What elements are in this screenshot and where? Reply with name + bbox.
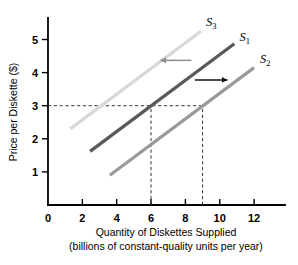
y-tick-label-5: 5: [32, 34, 38, 46]
x-tick-label-2: 2: [79, 212, 85, 224]
shift-left-arrow: [160, 58, 191, 64]
shift-right-arrow-head: [222, 77, 228, 83]
supply-curves: [70, 31, 254, 175]
x-axis-title-line1: Quantity of Diskettes Supplied: [96, 226, 237, 238]
supply-curve-s3: [70, 31, 201, 129]
y-axis-title: Price per Diskette ($): [7, 63, 19, 162]
y-tick-label-2: 2: [32, 133, 38, 145]
x-tick-label-12: 12: [248, 212, 260, 224]
curve-label-s1: S1: [239, 30, 250, 46]
shift-arrows: [160, 58, 227, 83]
chart-canvas: 12345 024681012 S1S2S3 Price per Diskett…: [0, 0, 298, 265]
reference-dashed-lines: [48, 106, 203, 205]
x-axis-tick-labels: 024681012: [45, 212, 260, 224]
y-axis-tick-labels: 12345: [32, 34, 39, 178]
x-axis-title-line2: (billions of constant-quality units per …: [69, 240, 263, 252]
x-tick-label-10: 10: [214, 212, 226, 224]
y-tick-label-4: 4: [32, 67, 39, 79]
x-tick-label-8: 8: [182, 212, 188, 224]
x-tick-label-4: 4: [114, 212, 121, 224]
x-tick-label-0: 0: [45, 212, 51, 224]
curve-label-s3: S3: [206, 15, 217, 31]
curve-label-s2: S2: [260, 52, 271, 68]
shift-right-arrow: [195, 77, 228, 83]
curve-label-subscript: 1: [246, 36, 250, 46]
supply-curve-figure: 12345 024681012 S1S2S3 Price per Diskett…: [0, 0, 298, 265]
x-tick-label-6: 6: [148, 212, 154, 224]
curve-label-subscript: 3: [212, 21, 216, 31]
curve-label-subscript: 2: [266, 58, 270, 68]
y-tick-label-3: 3: [32, 100, 38, 112]
y-tick-label-1: 1: [32, 166, 38, 178]
curve-labels: S1S2S3: [206, 15, 271, 68]
